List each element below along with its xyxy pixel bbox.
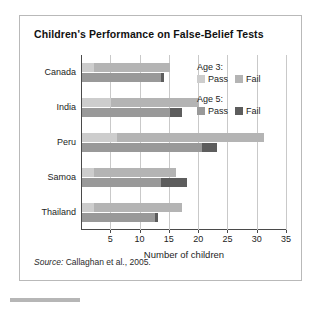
source-citation: Callaghan et al., 2005. xyxy=(63,257,150,267)
bar-segment-age5-pass[interactable] xyxy=(82,143,202,152)
bar-segment-age3-fail[interactable] xyxy=(117,133,263,142)
bar-segment-age3-fail[interactable] xyxy=(94,63,170,72)
legend-item-row: PassFail xyxy=(197,74,289,84)
legend-label: Pass xyxy=(208,106,228,116)
legend-label: Fail xyxy=(246,106,261,116)
bar-segment-age5-pass[interactable] xyxy=(82,73,161,82)
bar-segment-age3-pass[interactable] xyxy=(82,203,94,212)
source-label: Source: xyxy=(34,257,63,267)
bar-group xyxy=(82,160,287,195)
bar-age3[interactable] xyxy=(82,168,176,177)
x-axis-tick-labels: 5101520253035 xyxy=(81,234,287,248)
bar-segment-age5-fail[interactable] xyxy=(202,143,217,152)
bar-age3[interactable] xyxy=(82,98,199,107)
bar-age5[interactable] xyxy=(82,108,182,117)
bar-age3[interactable] xyxy=(82,203,182,212)
category-axis-labels: CanadaIndiaPeruSamoaThailand xyxy=(20,55,76,230)
tick-label-30: 30 xyxy=(252,234,262,244)
chart-legend: Age 3:PassFailAge 5:PassFail xyxy=(197,62,289,126)
bar-segment-age3-pass[interactable] xyxy=(82,133,117,142)
bar-segment-age5-pass[interactable] xyxy=(82,213,155,222)
bar-age3[interactable] xyxy=(82,63,170,72)
bar-segment-age5-pass[interactable] xyxy=(82,178,161,187)
bar-segment-age3-fail[interactable] xyxy=(111,98,199,107)
tickmark-5 xyxy=(110,230,111,233)
bar-segment-age5-fail[interactable] xyxy=(155,213,158,222)
source-note: Source: Callaghan et al., 2005. xyxy=(34,257,151,267)
category-label-canada: Canada xyxy=(44,67,76,77)
legend-item-row: PassFail xyxy=(197,106,289,116)
tickmark-25 xyxy=(227,230,228,233)
chart-title: Children's Performance on False-Belief T… xyxy=(34,28,264,40)
category-label-thailand: Thailand xyxy=(41,207,76,217)
tickmark-35 xyxy=(286,230,287,233)
legend-label: Pass xyxy=(208,74,228,84)
bar-age5[interactable] xyxy=(82,178,187,187)
bar-segment-age3-fail[interactable] xyxy=(94,168,176,177)
tickmark-10 xyxy=(140,230,141,233)
legend-swatch-icon xyxy=(235,107,243,115)
bar-segment-age3-pass[interactable] xyxy=(82,98,111,107)
bar-age5[interactable] xyxy=(82,73,164,82)
bar-segment-age5-pass[interactable] xyxy=(82,108,170,117)
legend-item-fail[interactable]: Fail xyxy=(235,74,261,84)
bar-segment-age5-fail[interactable] xyxy=(161,178,187,187)
bar-age5[interactable] xyxy=(82,143,217,152)
legend-label: Fail xyxy=(246,74,261,84)
legend-item-fail[interactable]: Fail xyxy=(235,106,261,116)
tickmark-30 xyxy=(257,230,258,233)
legend-swatch-icon xyxy=(197,107,205,115)
category-label-samoa: Samoa xyxy=(47,172,76,182)
tickmark-20 xyxy=(198,230,199,233)
legend-swatch-icon xyxy=(235,75,243,83)
bar-segment-age3-fail[interactable] xyxy=(94,203,182,212)
category-label-peru: Peru xyxy=(57,137,76,147)
legend-heading: Age 5: xyxy=(197,94,289,104)
legend-group-age3: Age 3:PassFail xyxy=(197,62,289,84)
bar-segment-age5-fail[interactable] xyxy=(161,73,164,82)
tick-label-15: 15 xyxy=(164,234,174,244)
tick-label-5: 5 xyxy=(108,234,113,244)
legend-heading: Age 3: xyxy=(197,62,289,72)
bar-age3[interactable] xyxy=(82,133,264,142)
legend-item-pass[interactable]: Pass xyxy=(197,74,228,84)
legend-swatch-icon xyxy=(197,75,205,83)
bar-group xyxy=(82,125,287,160)
figure-frame: Children's Performance on False-Belief T… xyxy=(19,15,302,281)
page-footer-rule xyxy=(10,298,80,302)
bar-group xyxy=(82,195,287,230)
bar-segment-age3-pass[interactable] xyxy=(82,168,94,177)
tick-label-35: 35 xyxy=(281,234,291,244)
tick-label-10: 10 xyxy=(135,234,145,244)
tick-label-25: 25 xyxy=(222,234,232,244)
bar-segment-age5-fail[interactable] xyxy=(170,108,182,117)
legend-item-pass[interactable]: Pass xyxy=(197,106,228,116)
tick-label-20: 20 xyxy=(193,234,203,244)
legend-group-age5: Age 5:PassFail xyxy=(197,94,289,116)
bar-segment-age3-pass[interactable] xyxy=(82,63,94,72)
bar-age5[interactable] xyxy=(82,213,158,222)
tickmark-15 xyxy=(169,230,170,233)
category-label-india: India xyxy=(56,102,76,112)
